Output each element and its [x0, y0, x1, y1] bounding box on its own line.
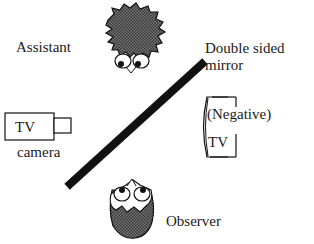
negative-label: (Negative)	[207, 107, 271, 122]
diagram-canvas: Assistant Double sided mirror TV camera …	[0, 0, 314, 244]
observer-face-icon	[110, 179, 153, 238]
assistant-face-icon	[106, 3, 165, 73]
assistant-hair	[106, 3, 165, 58]
camera-label: camera	[17, 145, 60, 160]
double-sided-label: Double sided	[205, 41, 285, 56]
tv-camera-box-label: TV	[15, 120, 35, 135]
tv-monitor-label: TV	[208, 135, 228, 150]
mirror-label: mirror	[205, 58, 243, 73]
assistant-label: Assistant	[16, 40, 71, 55]
diagram-svg	[0, 0, 314, 244]
mirror-line	[70, 64, 202, 184]
observer-label: Observer	[166, 214, 221, 229]
